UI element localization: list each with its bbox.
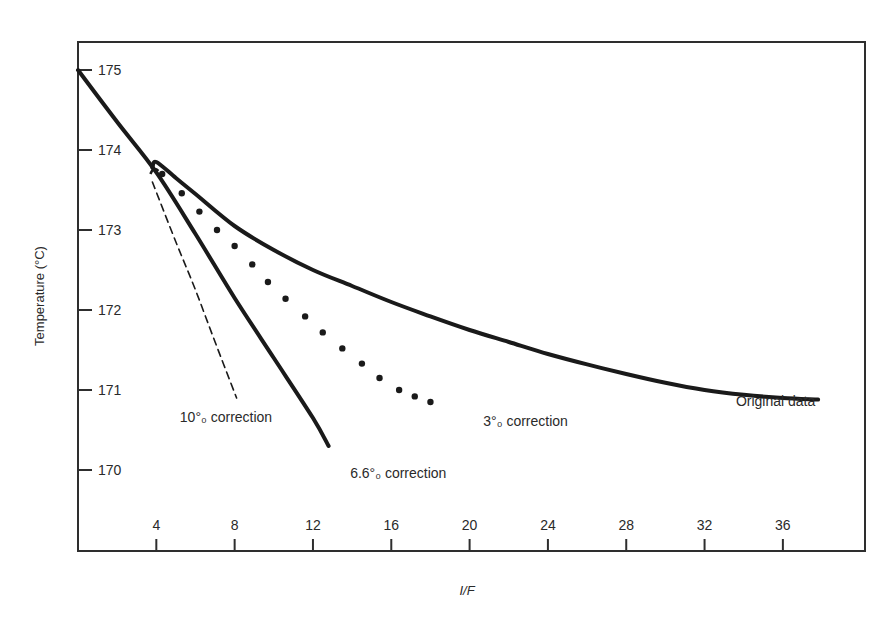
series-3-correction-dot xyxy=(282,296,288,302)
series-3-correction-dot xyxy=(427,399,433,405)
chart: 170171172173174175 4812162024283236 Orig… xyxy=(0,0,888,619)
series-3-correction-dot xyxy=(302,313,308,319)
series-original-data xyxy=(152,162,818,400)
annotation-original-data: Original data xyxy=(736,393,816,409)
series-3-correction-dot xyxy=(265,279,271,285)
x-tick-label: 12 xyxy=(305,517,321,533)
x-tick-label: 8 xyxy=(231,517,239,533)
y-tick-label: 171 xyxy=(98,382,122,398)
x-tick-label: 24 xyxy=(540,517,556,533)
y-axis-title: Temperature (°C) xyxy=(32,246,47,346)
annotation-6-6-correction: 6.6°₀ correction xyxy=(350,465,446,481)
y-axis-ticks: 170171172173174175 xyxy=(78,62,122,478)
series-3-correction-dot xyxy=(179,190,185,196)
series-3-correction-dot xyxy=(249,261,255,267)
series-10-correction xyxy=(152,182,236,398)
y-tick-label: 172 xyxy=(98,302,122,318)
annotation-3-correction: 3°₀ correction xyxy=(483,413,568,429)
x-tick-label: 28 xyxy=(618,517,634,533)
series-3-correction-dot xyxy=(359,360,365,366)
plot-frame xyxy=(78,42,865,551)
series-3-correction-dot xyxy=(214,227,220,233)
series-3-correction-dot xyxy=(412,393,418,399)
x-tick-label: 4 xyxy=(152,517,160,533)
x-tick-label: 20 xyxy=(462,517,478,533)
x-tick-label: 16 xyxy=(383,517,399,533)
y-tick-label: 174 xyxy=(98,142,122,158)
y-tick-label: 175 xyxy=(98,62,122,78)
series-3-correction-dot xyxy=(376,375,382,381)
annotation-layer: Original data3°₀ correction6.6°₀ correct… xyxy=(180,393,816,481)
y-tick-label: 170 xyxy=(98,462,122,478)
series-3-correction-dot xyxy=(196,208,202,214)
x-axis-title: I/F xyxy=(459,583,475,598)
series-3-correction-dot xyxy=(320,329,326,335)
x-tick-label: 32 xyxy=(697,517,713,533)
y-tick-label: 173 xyxy=(98,222,122,238)
series-layer xyxy=(78,70,818,446)
x-axis-ticks: 4812162024283236 xyxy=(152,517,790,551)
x-tick-label: 36 xyxy=(775,517,791,533)
series-3-correction-dot xyxy=(396,387,402,393)
annotation-10-correction: 10°₀ correction xyxy=(180,409,272,425)
series-3-correction-dot xyxy=(339,345,345,351)
series-3-correction-dot xyxy=(231,243,237,249)
